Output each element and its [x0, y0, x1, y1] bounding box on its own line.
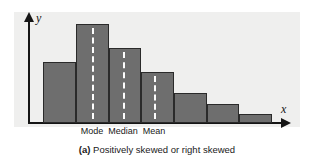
marker-line-mode	[92, 28, 94, 119]
histogram-bar	[174, 93, 207, 123]
marker-line-median	[123, 52, 125, 119]
marker-line-mean	[154, 76, 156, 119]
histogram-bar	[207, 104, 239, 123]
stat-label-mean: Mean	[143, 126, 166, 137]
caption-tag: (a)	[79, 144, 91, 155]
caption-text: Positively skewed or right skewed	[93, 144, 235, 155]
histogram-bar	[239, 114, 272, 123]
histogram-bar	[141, 72, 174, 123]
stat-label-mode: Mode	[81, 126, 104, 137]
histogram-bar	[109, 48, 141, 123]
figure-container: y x Mode Median Mean (a) Positively skew…	[0, 0, 314, 165]
histogram-bars	[0, 0, 314, 165]
figure-caption: (a) Positively skewed or right skewed	[0, 144, 314, 156]
histogram-bar	[43, 62, 76, 123]
stat-label-median: Median	[108, 126, 138, 137]
